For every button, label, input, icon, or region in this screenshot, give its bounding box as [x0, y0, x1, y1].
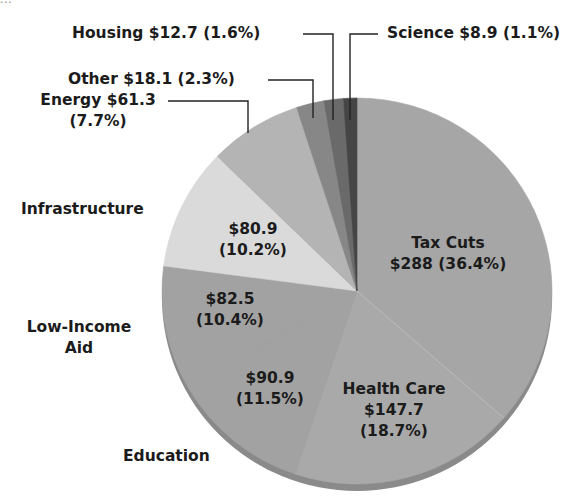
value-education: $90.9 (11.5%): [230, 368, 310, 410]
value-low-income-percent: (10.4%): [190, 310, 270, 331]
value-health-care-name: Health Care: [334, 379, 454, 400]
label-low-income-line2: Aid: [14, 338, 144, 359]
value-health-care-percent: (18.7%): [334, 421, 454, 442]
value-tax-cuts-name: Tax Cuts: [378, 233, 518, 254]
label-education: Education: [123, 446, 210, 467]
value-low-income-aid: $82.5 (10.4%): [190, 289, 270, 331]
value-tax-cuts: Tax Cuts $288 (36.4%): [378, 233, 518, 275]
label-low-income-line1: Low-Income: [14, 317, 144, 338]
label-low-income-aid: Low-Income Aid: [14, 317, 144, 359]
value-health-care: Health Care $147.7 (18.7%): [334, 379, 454, 442]
value-infrastructure: $80.9 (10.2%): [208, 219, 298, 261]
label-other: Other $18.1 (2.3%): [68, 69, 235, 90]
value-education-amount: $90.9: [230, 368, 310, 389]
leader-line-energy: [168, 101, 248, 133]
label-infrastructure: Infrastructure: [21, 199, 144, 220]
label-energy: Energy $61.3 (7.7%): [32, 90, 164, 132]
value-infrastructure-amount: $80.9: [208, 219, 298, 240]
value-tax-cuts-amount: $288 (36.4%): [378, 254, 518, 275]
value-health-care-amount: $147.7: [334, 400, 454, 421]
label-science: Science $8.9 (1.1%): [387, 23, 560, 44]
value-low-income-amount: $82.5: [190, 289, 270, 310]
label-energy-line1: Energy $61.3: [32, 90, 164, 111]
value-infrastructure-percent: (10.2%): [208, 240, 298, 261]
label-housing: Housing $12.7 (1.6%): [72, 23, 260, 44]
label-energy-line2: (7.7%): [32, 111, 164, 132]
value-education-percent: (11.5%): [230, 389, 310, 410]
